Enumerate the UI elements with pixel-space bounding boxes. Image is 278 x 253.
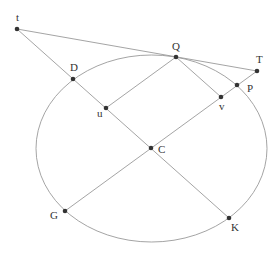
point-u <box>104 106 109 111</box>
point-t <box>15 27 20 32</box>
geometry-diagram: tDuCKGQvPT <box>0 0 278 253</box>
segment-t-K <box>17 29 229 218</box>
point-label-K: K <box>231 221 239 233</box>
point-label-G: G <box>50 209 58 221</box>
point-label-Q: Q <box>172 40 180 52</box>
point-label-P: P <box>247 82 253 94</box>
segment-Q-u <box>106 57 176 108</box>
point-label-v: v <box>219 100 225 112</box>
point-label-C: C <box>158 143 165 155</box>
point-v <box>219 95 224 100</box>
point-D <box>71 77 76 82</box>
labels: tDuCKGQvPT <box>16 11 263 233</box>
point-label-u: u <box>97 107 103 119</box>
segments <box>17 29 257 218</box>
segment-G-T <box>65 71 257 211</box>
segment-t-T <box>17 29 257 71</box>
point-G <box>63 209 68 214</box>
point-label-T: T <box>256 53 263 65</box>
point-label-t: t <box>16 11 19 23</box>
point-K <box>227 216 232 221</box>
point-label-D: D <box>70 61 78 73</box>
point-P <box>235 83 240 88</box>
point-T <box>255 69 260 74</box>
point-Q <box>174 55 179 60</box>
point-C <box>149 146 154 151</box>
